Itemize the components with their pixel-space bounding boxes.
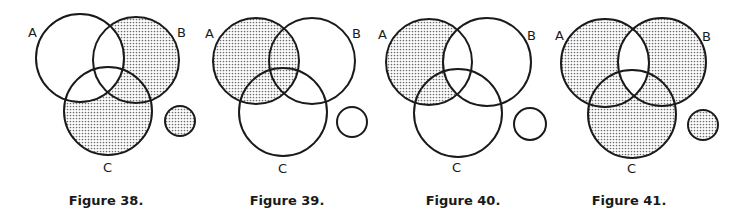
figure-caption: Figure 41. [592, 193, 667, 208]
label-b: B [527, 28, 536, 43]
figure-38: A B C Figure 38. [28, 14, 195, 208]
label-c: C [103, 160, 112, 175]
figure-40: A B C Figure 40. [378, 18, 546, 208]
label-b: B [702, 29, 711, 44]
label-b: B [352, 26, 361, 41]
label-a: A [555, 28, 564, 43]
small-circle-shaded [165, 106, 195, 136]
figure-41: A B C Figure 41. [555, 18, 718, 208]
label-b: B [177, 25, 186, 40]
venn-diagram-figures: A B C Figure 38. A B C Figure 39. A B C … [0, 0, 747, 213]
label-a: A [205, 26, 214, 41]
label-c: C [278, 161, 287, 176]
small-circle-unshaded [514, 108, 546, 140]
figure-41-shading [561, 18, 706, 158]
figure-38-shading [64, 17, 179, 155]
figure-caption: Figure 38. [69, 193, 144, 208]
small-circle-unshaded [337, 107, 367, 137]
figure-caption: Figure 39. [250, 193, 325, 208]
label-a: A [378, 27, 387, 42]
figure-39: A B C Figure 39. [205, 18, 367, 208]
small-circle-shaded [688, 110, 718, 140]
label-c: C [627, 161, 636, 176]
figure-caption: Figure 40. [426, 193, 501, 208]
label-a: A [28, 25, 37, 40]
label-c: C [452, 160, 461, 175]
